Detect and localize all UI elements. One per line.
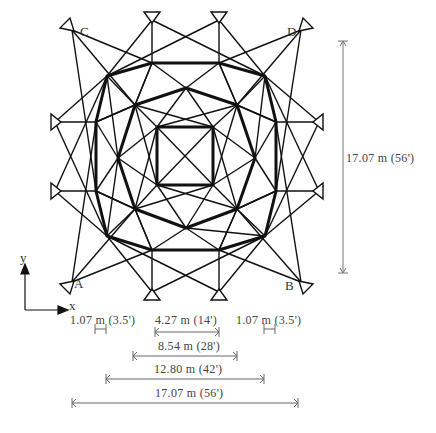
dim-label-17-07: 17.07 m (56') — [155, 386, 223, 400]
corner-label-c: C — [80, 24, 89, 39]
corner-label-d: D — [287, 24, 296, 39]
dim-label-1-07-right: 1.07 m (3.5') — [236, 313, 301, 327]
axis-indicator — [21, 264, 68, 314]
structure-plan-diagram: C D A B y x 17.07 m (56') — [0, 0, 436, 433]
dim-label-4-27: 4.27 m (14') — [155, 313, 217, 327]
dim-label-8-54: 8.54 m (28') — [158, 339, 220, 353]
corner-label-b: B — [285, 278, 294, 293]
dim-label-12-80: 12.80 m (42') — [154, 362, 222, 376]
support-symbols — [51, 12, 323, 300]
vertical-dimension-label: 17.07 m (56') — [346, 151, 414, 165]
y-axis-label: y — [20, 250, 27, 265]
dim-label-1-07-left: 1.07 m (3.5') — [70, 313, 135, 327]
corner-label-a: A — [74, 276, 84, 291]
x-axis-label: x — [69, 298, 76, 313]
